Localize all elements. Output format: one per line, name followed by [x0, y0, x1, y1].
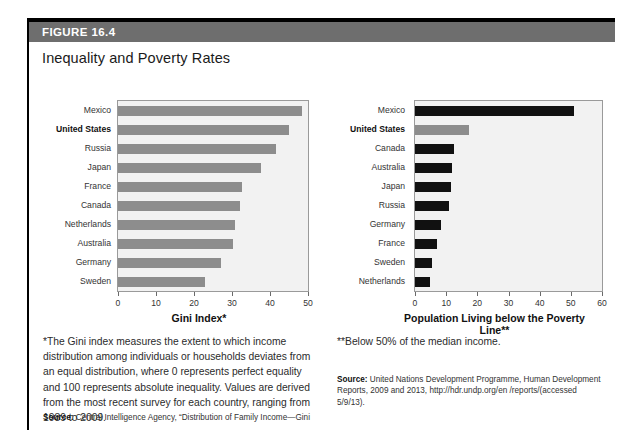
- bar: [415, 106, 574, 116]
- bar: [415, 239, 437, 249]
- x-axis-tick-label: 10: [441, 298, 451, 308]
- category-label: Australia: [78, 238, 111, 248]
- poverty-plot-area: 0102030405060: [414, 100, 603, 292]
- category-label: Netherlands: [65, 219, 111, 229]
- x-axis-tick-label: 20: [189, 298, 199, 308]
- x-axis-tick-label: 20: [473, 298, 483, 308]
- x-axis-tick-label: 0: [413, 298, 418, 308]
- figure-container: FIGURE 16.4 Inequality and Poverty Rates…: [27, 18, 615, 430]
- gini-x-axis: 01020304050: [118, 291, 308, 292]
- figure-number-label: FIGURE 16.4: [42, 24, 115, 40]
- bar: [415, 220, 441, 230]
- category-label: France: [378, 238, 405, 248]
- x-axis-tick: [571, 292, 572, 296]
- x-axis-tick-label: 40: [265, 298, 275, 308]
- bar: [118, 201, 240, 211]
- x-axis-tick: [156, 292, 157, 296]
- x-axis-tick: [509, 292, 510, 296]
- poverty-axis-title: Population Living below the Poverty Line…: [400, 312, 589, 336]
- x-axis-tick: [540, 292, 541, 296]
- category-label: United States: [350, 124, 405, 134]
- category-label: United States: [56, 124, 111, 134]
- bar: [118, 182, 242, 192]
- x-axis-tick: [415, 292, 416, 296]
- x-axis-tick-label: 0: [116, 298, 121, 308]
- poverty-category-labels: MexicoUnited StatesCanadaAustraliaJapanR…: [337, 100, 409, 292]
- bar: [118, 125, 289, 135]
- x-axis-tick-label: 50: [566, 298, 576, 308]
- category-label: Japan: [88, 162, 111, 172]
- bar: [415, 144, 454, 154]
- gini-category-labels: MexicoUnited StatesRussiaJapanFranceCana…: [43, 100, 115, 292]
- category-label: Germany: [370, 219, 405, 229]
- bar: [415, 182, 451, 192]
- poverty-chart: MexicoUnited StatesCanadaAustraliaJapanR…: [337, 100, 603, 292]
- figure-columns: MexicoUnited StatesRussiaJapanFranceCana…: [29, 80, 615, 428]
- bar: [415, 201, 449, 211]
- x-axis-tick-label: 10: [151, 298, 161, 308]
- category-label: Germany: [76, 257, 111, 267]
- gini-chart: MexicoUnited StatesRussiaJapanFranceCana…: [43, 100, 309, 292]
- bar: [118, 239, 233, 249]
- bar: [118, 163, 261, 173]
- x-axis-tick: [270, 292, 271, 296]
- x-axis-tick: [308, 292, 309, 296]
- category-label: Australia: [372, 162, 405, 172]
- gini-source-text: Central Intelligence Agency, “Distributi…: [76, 413, 310, 422]
- gini-plot-area: 01020304050: [117, 100, 309, 292]
- x-axis-tick-label: 60: [597, 298, 607, 308]
- category-label: Canada: [81, 200, 111, 210]
- figure-page: FIGURE 16.4 Inequality and Poverty Rates…: [0, 0, 630, 430]
- category-label: Russia: [379, 200, 405, 210]
- bar: [415, 258, 432, 268]
- x-axis-tick: [446, 292, 447, 296]
- x-axis-tick-label: 50: [303, 298, 313, 308]
- bar: [415, 163, 452, 173]
- x-axis-tick: [477, 292, 478, 296]
- figure-title: Inequality and Poverty Rates: [42, 50, 230, 66]
- x-axis-tick: [602, 292, 603, 296]
- poverty-footnote: **Below 50% of the median income.: [337, 334, 605, 349]
- category-label: Canada: [375, 143, 405, 153]
- left-panel: MexicoUnited StatesRussiaJapanFranceCana…: [29, 80, 323, 428]
- bar: [118, 258, 221, 268]
- bar: [415, 125, 469, 135]
- category-label: Mexico: [378, 105, 405, 115]
- category-label: Sweden: [374, 257, 405, 267]
- figure-header-band: [29, 22, 615, 42]
- x-axis-tick-label: 40: [535, 298, 545, 308]
- category-label: Russia: [85, 143, 111, 153]
- x-axis-tick: [194, 292, 195, 296]
- right-panel: MexicoUnited StatesCanadaAustraliaJapanR…: [323, 80, 617, 428]
- poverty-source-text: United Nations Development Programme, Hu…: [337, 375, 601, 407]
- bar: [415, 277, 430, 287]
- gini-axis-title: Gini Index*: [103, 312, 295, 324]
- category-label: Mexico: [84, 105, 111, 115]
- bar: [118, 106, 302, 116]
- poverty-source: Source: United Nations Development Progr…: [337, 374, 605, 408]
- bar: [118, 277, 205, 287]
- poverty-source-prefix: Source:: [337, 375, 367, 384]
- category-label: Netherlands: [359, 276, 405, 286]
- x-axis-tick-label: 30: [504, 298, 514, 308]
- x-axis-tick: [232, 292, 233, 296]
- category-label: Japan: [382, 181, 405, 191]
- x-axis-tick: [118, 292, 119, 296]
- x-axis-tick-label: 30: [227, 298, 237, 308]
- category-label: Sweden: [80, 276, 111, 286]
- category-label: France: [84, 181, 111, 191]
- gini-source-prefix: Source:: [43, 413, 73, 422]
- poverty-x-axis: 0102030405060: [415, 291, 602, 292]
- bar: [118, 144, 276, 154]
- bar: [118, 220, 235, 230]
- gini-source: Source: Central Intelligence Agency, “Di…: [43, 412, 311, 423]
